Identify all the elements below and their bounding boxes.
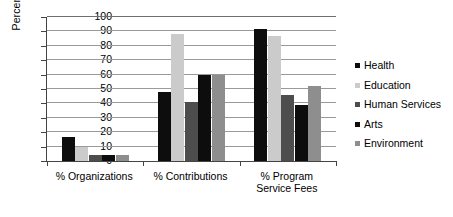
legend-item-health: Health <box>355 60 441 71</box>
x-label-1: % Organizations <box>46 170 142 182</box>
legend-swatch-icon <box>355 122 360 127</box>
legend-label: Arts <box>364 119 383 130</box>
legend-item-environment: Environment <box>355 138 441 149</box>
bar-education <box>75 147 88 161</box>
x-tick-mark <box>336 161 337 166</box>
legend-label: Environment <box>364 138 423 149</box>
legend-swatch-icon <box>355 141 360 146</box>
bar-arts <box>198 75 211 161</box>
x-label-3: % Program Service Fees <box>239 170 335 194</box>
bar-health <box>254 29 267 161</box>
legend-label: Human Services <box>364 99 441 110</box>
bar-environment <box>116 155 129 161</box>
bar-environment <box>308 86 321 161</box>
legend-swatch-icon <box>355 63 360 68</box>
legend-swatch-icon <box>355 102 360 107</box>
bar-education <box>268 36 281 161</box>
legend-swatch-icon <box>355 83 360 88</box>
bar-health <box>62 137 75 161</box>
bar-group <box>240 17 336 161</box>
bar-education <box>171 34 184 161</box>
plot-area <box>46 17 336 162</box>
legend-label: Health <box>364 60 394 71</box>
bar-human-services <box>89 155 102 161</box>
bar-human-services <box>185 102 198 161</box>
bar-chart: Percent 0102030405060708090100 % Organiz… <box>0 0 453 217</box>
x-tick-mark <box>47 161 48 166</box>
bar-environment <box>212 75 225 161</box>
chart-legend: HealthEducationHuman ServicesArtsEnviron… <box>355 60 441 149</box>
x-tick-mark <box>143 161 144 166</box>
x-tick-mark <box>240 161 241 166</box>
y-axis-title: Percent <box>10 0 22 52</box>
bar-group <box>47 17 143 161</box>
legend-item-education: Education <box>355 80 441 91</box>
legend-item-arts: Arts <box>355 119 441 130</box>
bar-arts <box>102 155 115 161</box>
legend-item-human-services: Human Services <box>355 99 441 110</box>
bar-human-services <box>281 95 294 161</box>
legend-label: Education <box>364 80 411 91</box>
x-label-2: % Contributions <box>142 170 238 182</box>
bar-health <box>158 92 171 161</box>
bar-arts <box>295 105 308 161</box>
bar-group <box>143 17 239 161</box>
